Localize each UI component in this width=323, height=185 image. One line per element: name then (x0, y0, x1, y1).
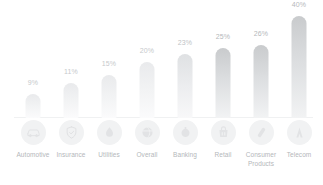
icon-cell-banking (166, 120, 204, 145)
category-label-telecom: Telecom (276, 151, 322, 160)
bar-value-label: 26% (254, 30, 268, 37)
bar-column-banking: 23% (166, 0, 204, 118)
icon-cell-insurance (52, 120, 90, 145)
bar-value-label: 40% (292, 1, 306, 8)
icon-cell-overall (128, 120, 166, 145)
icon-cell-utilities (90, 120, 128, 145)
piggy-bank-icon (173, 120, 198, 145)
bar-insurance (64, 83, 79, 118)
car-icon (21, 120, 46, 145)
bar-column-retail: 25% (204, 0, 242, 118)
globe-icon (135, 120, 160, 145)
signal-tower-icon (287, 120, 312, 145)
bar-wrapper (140, 62, 155, 118)
category-label-row: Automotive Insurance Utilities Overall B… (0, 151, 323, 185)
bar-retail (216, 48, 231, 118)
bar-value-label: 15% (102, 60, 116, 67)
bar-value-label: 23% (178, 39, 192, 46)
bar-consumer-products (254, 45, 269, 118)
bar-wrapper (102, 75, 117, 118)
bar-value-label: 11% (64, 68, 78, 75)
bar-wrapper (178, 54, 193, 118)
bar-wrapper (64, 83, 79, 118)
bar-overall (140, 62, 155, 118)
bar-column-overall: 20% (128, 0, 166, 118)
bar-banking (178, 54, 193, 118)
bar-utilities (102, 75, 117, 118)
water-drop-icon (97, 120, 122, 145)
bar-column-telecom: 40% (280, 0, 318, 118)
icon-cell-retail (204, 120, 242, 145)
category-label-line1: Telecom (276, 151, 322, 160)
bar-automotive (26, 94, 41, 118)
bar-value-label: 20% (140, 47, 154, 54)
bar-column-insurance: 11% (52, 0, 90, 118)
bar-wrapper (254, 45, 269, 118)
shield-check-icon (59, 120, 84, 145)
icon-cell-consumer-products (242, 120, 280, 145)
bar-wrapper (216, 48, 231, 118)
bar-column-automotive: 9% (14, 0, 52, 118)
bottle-icon (249, 120, 274, 145)
icon-cell-automotive (14, 120, 52, 145)
bar-wrapper (292, 16, 307, 118)
icon-cell-telecom (280, 120, 318, 145)
category-icon-row (0, 120, 323, 150)
bar-value-label: 9% (28, 79, 38, 86)
shopping-bag-icon (211, 120, 236, 145)
bar-column-utilities: 15% (90, 0, 128, 118)
category-label-line2: Products (238, 160, 284, 169)
bar-value-label: 25% (216, 33, 230, 40)
bar-telecom (292, 16, 307, 118)
bar-column-consumer-products: 26% (242, 0, 280, 118)
plot-area: 9% 11% 15% 20% 23% (0, 0, 323, 118)
bar-wrapper (26, 94, 41, 118)
bar-chart: 9% 11% 15% 20% 23% (0, 0, 323, 185)
